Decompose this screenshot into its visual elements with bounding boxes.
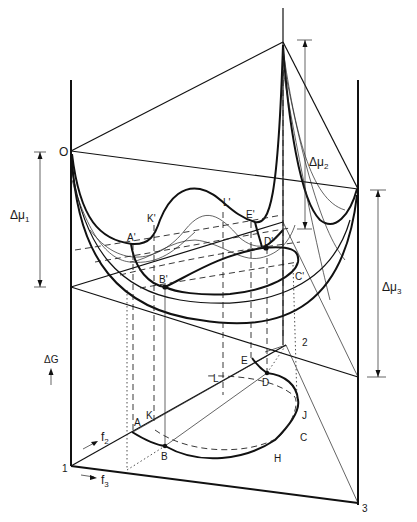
label-K-prime: K' (147, 213, 156, 224)
label-E: E (241, 355, 248, 366)
label-E-prime: E' (246, 209, 255, 220)
label-delta-g: ΔG (44, 354, 59, 365)
label-L-prime: L' (223, 197, 231, 208)
key-point-markers (162, 245, 269, 448)
label-B-prime: B' (159, 274, 168, 285)
label-L: L (213, 373, 219, 384)
label-f2: f2 (101, 430, 109, 446)
base-tie-lines (133, 356, 267, 446)
label-C: C (300, 432, 307, 443)
label-vertex-1: 1 (62, 463, 68, 474)
projection-lines (127, 212, 297, 470)
axis-arrows (49, 368, 99, 480)
label-B: B (161, 451, 168, 462)
label-f3: f3 (101, 473, 109, 489)
label-K: K (146, 410, 153, 421)
label-delta-mu-2: Δμ2 (309, 155, 329, 171)
label-D-prime: D' (264, 236, 273, 247)
label-delta-mu-3: Δμ3 (382, 280, 402, 296)
label-vertex-2: 2 (302, 337, 308, 348)
label-delta-mu-1: Δμ1 (10, 208, 30, 224)
label-C-prime: C' (295, 271, 304, 282)
energy-surface (72, 45, 357, 323)
label-A-prime: A' (127, 232, 136, 243)
label-J: J (302, 410, 307, 421)
prism-edges (71, 8, 358, 505)
label-H: H (274, 453, 281, 464)
label-A: A (134, 417, 141, 428)
ternary-free-energy-diagram: O 1 2 3 ΔG f2 f3 Δμ1 Δμ2 Δμ3 A' K' L' E'… (0, 0, 417, 522)
base-triangle (71, 345, 358, 503)
delta-mu-1-bracket (34, 152, 46, 287)
label-O: O (59, 145, 68, 159)
label-vertex-3: 3 (362, 503, 368, 514)
label-D: D (262, 377, 269, 388)
